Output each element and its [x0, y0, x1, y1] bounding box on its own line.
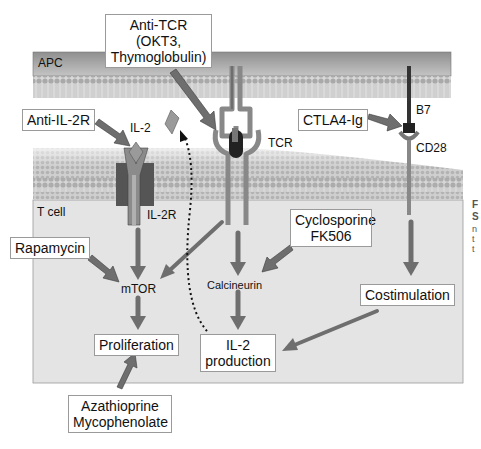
diagram-canvas	[0, 0, 481, 449]
rapamycin-box: Rapamycin	[10, 237, 90, 259]
cyclosporine-line1: Cyclosporine	[295, 212, 367, 228]
il2-production-line1: IL-2	[205, 337, 271, 353]
edge-text-5: t	[472, 244, 475, 255]
proliferation-label: Proliferation	[99, 337, 174, 353]
anti-tcr-line3: Thymoglobulin)	[110, 49, 207, 65]
costimulation-box: Costimulation	[360, 284, 455, 306]
edge-text-2: S	[472, 211, 479, 222]
apc-label: APC	[38, 56, 63, 70]
ctla4ig-box: CTLA4-Ig	[298, 109, 368, 131]
mtor-label: mTOR	[121, 282, 156, 296]
azathioprine-box: Azathioprine Mycophenolate	[68, 395, 172, 433]
il2-production-box: IL-2 production	[200, 334, 276, 372]
azathioprine-line2: Mycophenolate	[73, 414, 167, 430]
tcell-label: T cell	[37, 205, 65, 219]
il2r-label: IL-2R	[147, 208, 176, 222]
costimulation-label: Costimulation	[365, 287, 450, 303]
ctla4ig-label: CTLA4-Ig	[303, 112, 363, 128]
anti-tcr-box: Anti-TCR (OKT3, Thymoglobulin)	[105, 14, 212, 68]
calcineurin-label: Calcineurin	[207, 278, 262, 292]
tcr-label: TCR	[268, 136, 293, 150]
anti-tcr-line2: (OKT3,	[110, 33, 207, 49]
cyclosporine-line2: FK506	[295, 228, 367, 244]
anti-il2r-box: Anti-IL-2R	[22, 109, 95, 131]
proliferation-box: Proliferation	[94, 334, 179, 356]
azathioprine-line1: Azathioprine	[73, 398, 167, 414]
il2-free-icon	[165, 110, 179, 134]
il2-label: IL-2	[130, 121, 151, 135]
rapamycin-label: Rapamycin	[15, 240, 85, 256]
b7-label: B7	[416, 103, 431, 117]
cyclosporine-box: Cyclosporine FK506	[290, 209, 372, 247]
anti-il2r-label: Anti-IL-2R	[27, 112, 90, 128]
edge-text-1: F	[472, 199, 478, 210]
anti-tcr-line1: Anti-TCR	[110, 17, 207, 33]
il2-production-line2: production	[205, 353, 271, 369]
cd28-label: CD28	[416, 141, 447, 155]
